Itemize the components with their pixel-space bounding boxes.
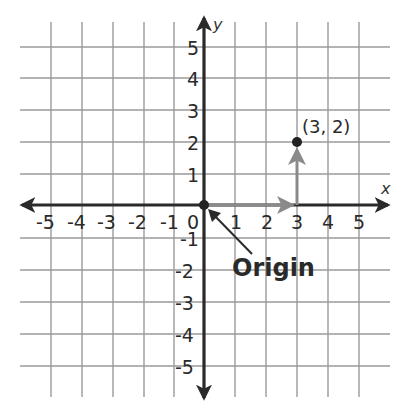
y-tick--2: -2 [175,260,194,282]
coordinate-plane: y x -5 -4 -3 -2 -1 0 1 2 3 4 5 5 4 3 2 1… [0,0,417,417]
x-tick-2: 2 [261,211,273,233]
y-tick--5: -5 [175,356,194,378]
x-tick-3: 3 [291,211,303,233]
y-tick--4: -4 [175,324,194,346]
y-tick--1: -1 [180,228,199,250]
x-tick--5: -5 [36,211,55,233]
x-axis-name: x [380,179,391,198]
x-tick--3: -3 [97,211,116,233]
point-3-2 [292,137,302,147]
y-tick-1: 1 [187,164,199,186]
y-axis-name: y [212,15,223,34]
y-tick-3: 3 [187,100,199,122]
x-tick--4: -4 [67,211,86,233]
x-tick-labels: -5 -4 -3 -2 -1 0 1 2 3 4 5 [36,211,365,233]
x-tick-4: 4 [322,211,334,233]
x-tick--1: -1 [160,211,179,233]
y-tick-4: 4 [187,68,199,90]
origin-label: Origin [232,254,315,282]
y-tick-labels: 5 4 3 2 1 -1 -2 -3 -4 -5 [175,37,199,378]
y-tick-2: 2 [187,132,199,154]
point-label: (3, 2) [302,116,350,137]
y-tick-5: 5 [187,37,199,59]
origin-point [199,200,209,210]
x-tick--2: -2 [128,211,147,233]
y-tick--3: -3 [175,292,194,314]
x-tick-1: 1 [230,211,242,233]
x-tick-5: 5 [353,211,365,233]
